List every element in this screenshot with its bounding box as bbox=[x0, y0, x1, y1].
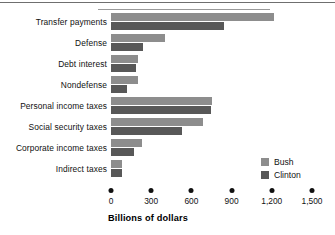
category-row: Social security taxes bbox=[0, 117, 335, 138]
x-axis-tick-label: 0 bbox=[109, 196, 114, 207]
category-label: Transfer payments bbox=[0, 13, 107, 32]
category-row: Debt interest bbox=[0, 54, 335, 75]
x-axis-tick-label: 300 bbox=[144, 196, 158, 207]
bar-bush bbox=[111, 118, 203, 126]
bar-bush bbox=[111, 76, 138, 84]
bar-bush bbox=[111, 97, 212, 105]
x-axis-tick-marker bbox=[310, 188, 315, 193]
category-label: Corporate income taxes bbox=[0, 139, 107, 158]
bar-clinton bbox=[111, 127, 182, 135]
grouped-bar-chart: Transfer paymentsDefenseDebt interestNon… bbox=[0, 0, 335, 235]
bar-clinton bbox=[111, 85, 127, 93]
x-axis-tick-marker bbox=[149, 188, 154, 193]
x-axis: 03006009001,2001,500 bbox=[0, 188, 335, 214]
x-axis-tick-marker bbox=[269, 188, 274, 193]
x-axis-tick-label: 600 bbox=[184, 196, 198, 207]
bar-clinton bbox=[111, 169, 122, 177]
category-label: Debt interest bbox=[0, 55, 107, 74]
x-axis-tick-marker bbox=[229, 188, 234, 193]
x-axis-tick-marker bbox=[109, 188, 114, 193]
legend-item: Clinton bbox=[261, 169, 331, 182]
category-row: Transfer payments bbox=[0, 12, 335, 33]
bar-clinton bbox=[111, 22, 224, 30]
category-label: Defense bbox=[0, 34, 107, 53]
legend-item: Bush bbox=[261, 156, 331, 169]
legend-label: Clinton bbox=[274, 169, 301, 181]
category-row: Personal income taxes bbox=[0, 96, 335, 117]
category-row: Defense bbox=[0, 33, 335, 54]
x-axis-tick-label: 1,200 bbox=[261, 196, 282, 207]
x-axis-tick-label: 900 bbox=[225, 196, 239, 207]
bar-bush bbox=[111, 13, 274, 21]
bar-clinton bbox=[111, 106, 211, 114]
category-label: Social security taxes bbox=[0, 118, 107, 137]
bar-clinton bbox=[111, 64, 136, 72]
legend-swatch-icon bbox=[261, 171, 269, 179]
category-label: Nondefense bbox=[0, 76, 107, 95]
category-label: Personal income taxes bbox=[0, 97, 107, 116]
category-label: Indirect taxes bbox=[0, 160, 107, 179]
chart-legend: BushClinton bbox=[261, 156, 331, 182]
legend-label: Bush bbox=[274, 156, 294, 168]
bar-clinton bbox=[111, 148, 134, 156]
category-row: Nondefense bbox=[0, 75, 335, 96]
bar-bush bbox=[111, 34, 165, 42]
legend-swatch-icon bbox=[261, 158, 269, 166]
bar-bush bbox=[111, 55, 138, 63]
page-rule-divider bbox=[0, 2, 335, 3]
bar-clinton bbox=[111, 43, 143, 51]
x-axis-tick-label: 1,500 bbox=[302, 196, 323, 207]
x-axis-title: Billions of dollars bbox=[108, 213, 188, 223]
bar-bush bbox=[111, 139, 142, 147]
x-axis-tick-marker bbox=[189, 188, 194, 193]
bar-bush bbox=[111, 160, 122, 168]
